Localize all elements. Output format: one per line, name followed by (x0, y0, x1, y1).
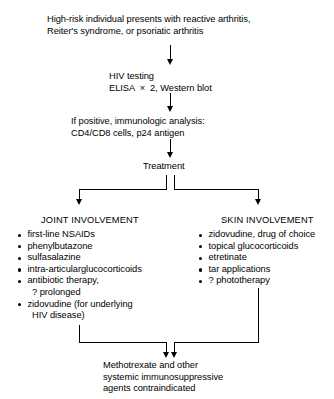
node-contraindicated: Methotrexate and other systemic immunosu… (103, 360, 223, 395)
arrowhead-presentation-to-hiv (167, 59, 173, 65)
list-joint-involvement: first-line NSAIDs phenylbutazone sulfasa… (18, 229, 142, 322)
heading-skin-involvement: SKIN INVOLVEMENT (221, 215, 314, 227)
merge-stem-right (258, 288, 259, 343)
list-item: phenylbutazone (18, 241, 142, 253)
split-bar-right (174, 189, 259, 190)
list-item: ? phototherapy (199, 275, 315, 287)
node-presentation-line1: High-risk individual presents with react… (47, 14, 250, 24)
list-item: sulfasalazine (18, 252, 142, 264)
node-contraindicated-line1: Methotrexate and other (103, 360, 198, 370)
arrowhead-hiv-to-immunologic (167, 106, 173, 112)
list-item: topical glucocorticoids (199, 241, 315, 253)
flowchart-diagram: High-risk individual presents with react… (0, 0, 334, 399)
list-item: tar applications (199, 264, 315, 276)
node-treatment: Treatment (143, 161, 185, 173)
node-presentation-line2: Reiter's syndrome, or psoriatic arthriti… (47, 26, 203, 36)
heading-joint-involvement: JOINT INVOLVEMENT (41, 215, 139, 227)
node-presentation: High-risk individual presents with react… (47, 14, 250, 37)
split-bar-left (79, 189, 167, 190)
node-immunologic-analysis: If positive, immunologic analysis: CD4/C… (71, 116, 205, 139)
list-item: zidovudine (for underlying (18, 299, 142, 311)
arrowhead-to-skin-branch (255, 199, 261, 205)
merge-bar-right (174, 342, 259, 343)
split-stem-right (174, 175, 175, 190)
list-item: antibiotic therapy, (18, 275, 142, 287)
list-item: intra-articularglucocorticoids (18, 264, 142, 276)
node-immunologic-line2: CD4/CD8 cells, p24 antigen (71, 128, 184, 138)
list-item-continuation: HIV disease) (18, 310, 142, 322)
node-hiv-testing-line1: HIV testing (109, 71, 154, 81)
node-contraindicated-line3: agents contraindicated (103, 383, 195, 393)
node-hiv-testing: HIV testing ELISA × 2, Western blot (109, 71, 212, 94)
arrowhead-merge-right (171, 352, 177, 358)
list-item-continuation: ? prolonged (18, 287, 142, 299)
merge-bar-left (79, 342, 166, 343)
node-immunologic-line1: If positive, immunologic analysis: (71, 116, 205, 126)
node-hiv-testing-line2: ELISA × 2, Western blot (109, 83, 212, 93)
merge-stem-left (79, 325, 80, 343)
arrowhead-immunologic-to-treatment (167, 152, 173, 158)
list-item: first-line NSAIDs (18, 229, 142, 241)
list-skin-involvement: zidovudine, drug of choice topical gluco… (199, 229, 315, 287)
split-stem-left (166, 175, 167, 190)
node-contraindicated-line2: systemic immunosuppressive (103, 372, 223, 382)
arrowhead-merge-left (163, 352, 169, 358)
arrowhead-to-joint-branch (76, 199, 82, 205)
list-item: etretinate (199, 252, 315, 264)
list-item: zidovudine, drug of choice (199, 229, 315, 241)
